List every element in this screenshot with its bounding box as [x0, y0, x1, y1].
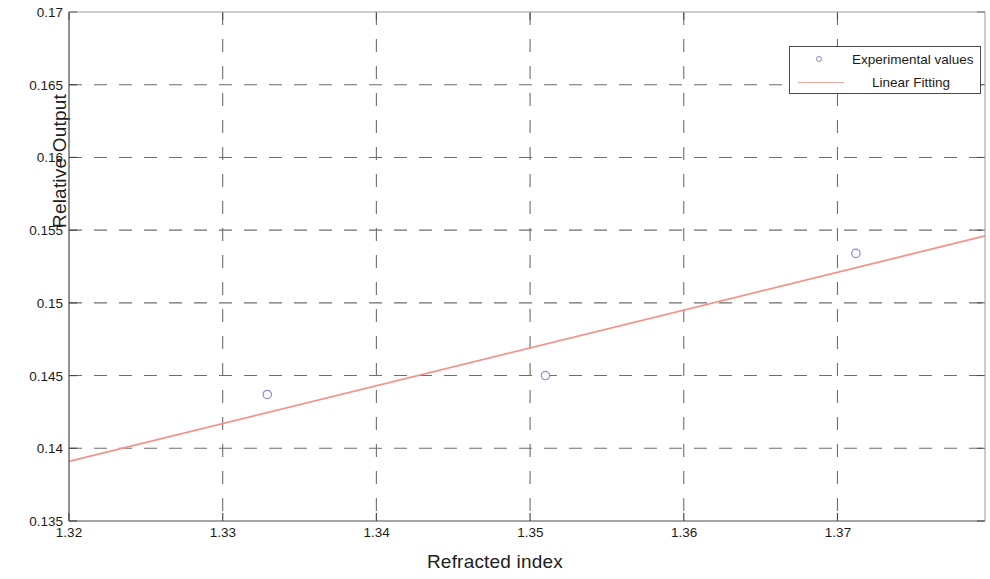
data-point-marker [541, 371, 549, 379]
legend: Experimental values Linear Fitting [789, 46, 981, 94]
legend-label: Linear Fitting [852, 75, 980, 90]
data-point-marker [263, 390, 271, 398]
data-point-marker [852, 249, 860, 257]
fit-line [69, 236, 985, 461]
legend-entry-linear-fitting: Linear Fitting [790, 70, 980, 94]
chart-figure: Relative Output Refracted index 0.17 0.1… [0, 0, 990, 579]
legend-marker-icon [790, 47, 852, 71]
legend-label: Experimental values [852, 52, 984, 67]
data-series-layer [69, 236, 985, 461]
legend-entry-experimental: Experimental values [790, 47, 980, 71]
legend-line-icon [790, 70, 852, 94]
